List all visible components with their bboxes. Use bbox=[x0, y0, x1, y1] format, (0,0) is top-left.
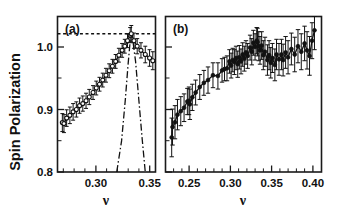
panel-b-xtick-035: 0.35 bbox=[260, 177, 283, 189]
panel-b-xtick-025: 0.25 bbox=[178, 177, 201, 189]
figure-svg: Spin Polarization (a) 1.0 0.9 0.8 bbox=[0, 0, 337, 216]
panel-a-x-ticks bbox=[63, 166, 149, 173]
panel-b-x-axis-title: ν bbox=[239, 193, 247, 208]
panel-a-y-ticks bbox=[58, 47, 65, 172]
panel-b-xtick-030: 0.30 bbox=[219, 177, 241, 189]
panel-a-frame bbox=[58, 17, 156, 173]
y-axis-title: Spin Polarization bbox=[7, 53, 23, 171]
panel-a-ytick-09: 0.9 bbox=[37, 104, 53, 116]
spin-polarization-figure: Spin Polarization (a) 1.0 0.9 0.8 bbox=[0, 0, 337, 216]
panel-a-xtick-030: 0.30 bbox=[85, 177, 107, 189]
panel-b-label: (b) bbox=[173, 22, 188, 36]
panel-a-ytick-08: 0.8 bbox=[37, 166, 54, 178]
panel-a-xtick-035: 0.35 bbox=[139, 177, 162, 189]
panel-b-xtick-040: 0.40 bbox=[302, 177, 324, 189]
panel-a-x-axis-title: ν bbox=[102, 193, 110, 208]
panel-a-ytick-1: 1.0 bbox=[37, 41, 53, 53]
panel-a: (a) 1.0 0.9 0.8 bbox=[37, 17, 161, 209]
panel-b-errorbars bbox=[169, 17, 316, 157]
panel-a-label: (a) bbox=[65, 22, 80, 36]
panel-b-x-ticks bbox=[174, 166, 313, 173]
panel-b: (b) bbox=[166, 17, 325, 209]
